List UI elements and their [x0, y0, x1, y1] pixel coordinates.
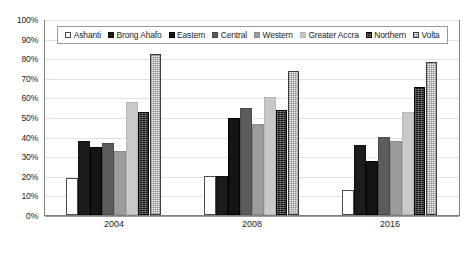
bar-group-2016	[321, 21, 459, 215]
bar-eastern-2004	[90, 147, 101, 215]
bar-northern-2004	[138, 112, 149, 215]
bar-volta-2016	[426, 62, 437, 215]
bar-eastern-2008	[228, 118, 239, 215]
bar-ashanti-2008	[204, 176, 215, 215]
bar-accra-2008	[264, 97, 275, 215]
bar-ashanti-2004	[66, 178, 77, 215]
legend-label: Ashanti	[74, 30, 101, 40]
legend-item-accra[interactable]: Greater Accra	[300, 30, 359, 40]
legend-swatch-volta-icon	[413, 32, 419, 38]
legend-label: Central	[221, 30, 247, 40]
bar-brong-2008	[216, 176, 227, 215]
legend-swatch-accra-icon	[300, 32, 306, 38]
y-axis-tick-label: 30%	[22, 152, 38, 162]
bar-central-2016	[378, 137, 389, 215]
legend-label: Brong Ahafo	[117, 30, 162, 40]
bar-accra-2016	[402, 112, 413, 215]
legend-swatch-western-icon	[254, 32, 260, 38]
y-axis: 0%10%20%30%40%50%60%70%80%90%100%	[0, 20, 42, 216]
legend-swatch-ashanti-icon	[65, 32, 71, 38]
legend-swatch-central-icon	[212, 32, 218, 38]
bar-central-2008	[240, 108, 251, 215]
y-axis-tick-label: 100%	[17, 15, 38, 25]
y-axis-tick-label: 50%	[22, 113, 38, 123]
y-axis-tick-label: 60%	[22, 93, 38, 103]
legend-label: Northern	[374, 30, 406, 40]
bar-eastern-2016	[366, 161, 377, 215]
y-axis-tick-label: 40%	[22, 133, 38, 143]
legend-label: Volta	[422, 30, 440, 40]
y-axis-tick-label: 90%	[22, 35, 38, 45]
legend-swatch-northern-icon	[366, 32, 372, 38]
bar-group-2004	[45, 21, 183, 215]
plot-area	[45, 21, 459, 215]
legend-label: Eastern	[177, 30, 205, 40]
legend-item-volta[interactable]: Volta	[413, 30, 440, 40]
legend-swatch-brong-icon	[108, 32, 114, 38]
bar-ashanti-2016	[342, 190, 353, 215]
bar-volta-2008	[288, 71, 299, 215]
y-axis-tick-label: 20%	[22, 172, 38, 182]
legend-item-brong[interactable]: Brong Ahafo	[108, 30, 162, 40]
y-axis-tick-label: 70%	[22, 74, 38, 84]
legend-label: Greater Accra	[308, 30, 358, 40]
gridline	[45, 216, 459, 217]
legend-item-central[interactable]: Central	[212, 30, 247, 40]
legend-item-eastern[interactable]: Eastern	[169, 30, 206, 40]
legend-item-northern[interactable]: Northern	[366, 30, 406, 40]
bar-group-2008	[183, 21, 321, 215]
bar-northern-2008	[276, 110, 287, 215]
bar-brong-2016	[354, 145, 365, 215]
x-axis: 200420082016	[45, 219, 459, 239]
legend-label: Western	[263, 30, 293, 40]
bar-volta-2004	[150, 54, 161, 215]
bar-western-2008	[252, 124, 263, 215]
x-axis-tick-label-2008: 2008	[242, 219, 262, 229]
legend-swatch-eastern-icon	[169, 32, 175, 38]
x-axis-tick-label-2016: 2016	[380, 219, 400, 229]
legend-item-ashanti[interactable]: Ashanti	[65, 30, 101, 40]
y-axis-tick-label: 10%	[22, 191, 38, 201]
bar-central-2004	[102, 143, 113, 215]
legend-item-western[interactable]: Western	[254, 30, 293, 40]
bar-northern-2016	[414, 87, 425, 215]
bar-brong-2004	[78, 141, 89, 215]
y-axis-tick-label: 0%	[26, 211, 38, 221]
y-axis-tick-label: 80%	[22, 54, 38, 64]
bar-western-2016	[390, 141, 401, 215]
bar-western-2004	[114, 151, 125, 215]
x-axis-tick-label-2004: 2004	[104, 219, 124, 229]
chart-figure: 0%10%20%30%40%50%60%70%80%90%100% 200420…	[0, 0, 472, 253]
chart-legend: AshantiBrong AhafoEasternCentralWesternG…	[57, 26, 448, 44]
bar-accra-2004	[126, 102, 137, 215]
